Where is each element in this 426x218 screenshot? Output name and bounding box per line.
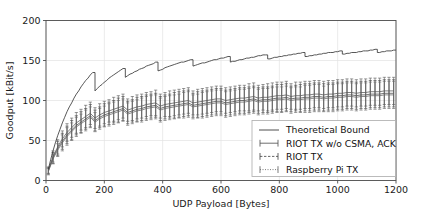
legend-label: RIOT TX — [286, 151, 323, 162]
goodput-chart-figure: 020040060080010001200050100150200 UDP Pa… — [0, 0, 426, 218]
y-tick-label: 0 — [34, 175, 40, 186]
x-axis-title: UDP Payload [Bytes] — [172, 198, 269, 209]
y-tick-label: 50 — [28, 135, 40, 146]
x-tick-label: 800 — [270, 184, 288, 195]
y-tick-label: 150 — [22, 55, 40, 66]
chart-legend[interactable]: Theoretical BoundRIOT TX w/o CSMA, ACKRI… — [252, 121, 397, 177]
x-tick-label: 200 — [95, 184, 113, 195]
y-tick-label: 200 — [22, 15, 40, 26]
legend-label: Theoretical Bound — [285, 124, 370, 135]
chart-canvas: 020040060080010001200050100150200 UDP Pa… — [0, 0, 426, 218]
x-tick-label: 1200 — [384, 184, 408, 195]
y-axis-title: Goodput [kBit/s] — [4, 62, 15, 140]
legend-label: Raspberry Pi TX — [286, 164, 358, 175]
x-tick-label: 0 — [43, 184, 49, 195]
y-tick-label: 100 — [22, 95, 40, 106]
x-tick-label: 600 — [212, 184, 230, 195]
legend-label: RIOT TX w/o CSMA, ACK — [286, 138, 397, 149]
x-tick-label: 1000 — [326, 184, 350, 195]
x-tick-label: 400 — [154, 184, 172, 195]
